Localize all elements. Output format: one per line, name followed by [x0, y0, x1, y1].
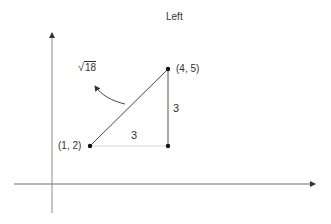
diagram-title: Left [166, 12, 183, 22]
curved-arrow-icon [95, 86, 125, 104]
hypotenuse-line [90, 69, 168, 146]
point-1-2-label: (1, 2) [58, 141, 81, 151]
vertical-leg-label: 3 [173, 103, 179, 114]
radical-argument: 18 [84, 61, 96, 73]
coordinate-diagram [0, 0, 331, 224]
point-4-5 [166, 67, 170, 71]
point-1-2 [88, 144, 92, 148]
point-corner-4-2 [166, 144, 170, 148]
hypotenuse-length-label: √18 [78, 61, 96, 73]
horizontal-leg-label: 3 [131, 130, 137, 141]
point-4-5-label: (4, 5) [176, 64, 199, 74]
